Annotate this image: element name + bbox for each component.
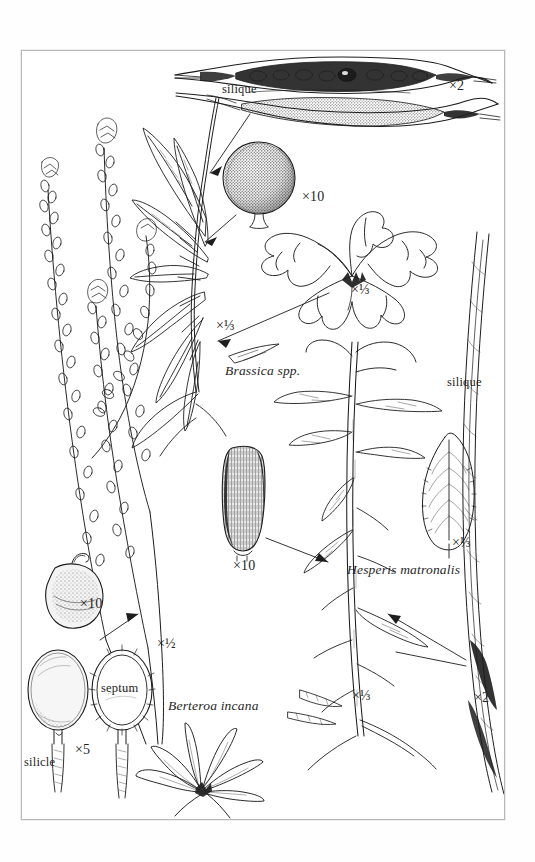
label-mag-silique-top: ×2 (449, 78, 464, 94)
plate-frame (21, 50, 505, 820)
label-mag-brassica-rosette: ×⅓ (351, 282, 370, 298)
label-silique-right: silique (447, 375, 482, 390)
label-silique-top: silique (222, 82, 257, 97)
label-silicle: silicle (24, 755, 55, 770)
label-mag-brassica-pod: ×⅓ (216, 318, 235, 334)
label-mag-brassica-seed: ×10 (302, 189, 325, 205)
label-mag-hesperis-seed: ×10 (233, 558, 256, 574)
label-mag-berteroa-seed: ×10 (80, 596, 103, 612)
label-mag-hesperis-plant: ×⅓ (352, 688, 371, 704)
label-mag-berteroa-silicle: ×5 (75, 742, 90, 758)
label-mag-hesperis-leaf: ×⅓ (452, 535, 471, 551)
label-septum: septum (101, 681, 138, 696)
label-mag-berteroa-plant: ×½ (157, 636, 176, 652)
label-species-hesperis: Hesperis matronalis (347, 562, 460, 578)
label-species-brassica: Brassica spp. (225, 363, 300, 379)
label-mag-hesperis-silique: ×2 (474, 690, 489, 706)
label-species-berteroa: Berteroa incana (168, 698, 259, 714)
illustration-plate: silique ×2 ×10 ×⅓ ×⅓ Brassica spp. siliq… (0, 0, 535, 862)
